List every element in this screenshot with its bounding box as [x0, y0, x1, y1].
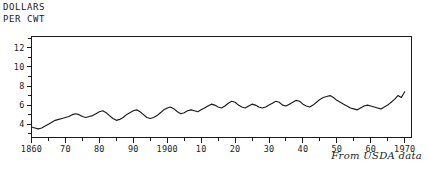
x-axis-tick-label: 20 — [230, 144, 241, 154]
y-axis-tick-label: 4 — [19, 119, 24, 129]
y-axis-tick-label: 6 — [19, 100, 24, 110]
x-axis-tick-label: 1860 — [21, 144, 42, 154]
x-axis-tick-label: 80 — [94, 144, 105, 154]
line-chart-plot: 4681012186070809019001020304050601970 — [0, 0, 429, 170]
plot-frame — [32, 37, 412, 138]
x-axis-tick-label: 10 — [196, 144, 207, 154]
x-axis-tick-label: 70 — [60, 144, 71, 154]
y-axis-tick-label: 12 — [14, 43, 25, 53]
y-axis-tick-label: 8 — [19, 81, 24, 91]
y-axis-title-line2: PER CWT — [3, 14, 45, 24]
y-axis-title: DOLLARS PER CWT — [3, 2, 45, 25]
x-axis-tick-label: 30 — [264, 144, 275, 154]
x-axis-tick-label: 40 — [298, 144, 309, 154]
chart-figure: DOLLARS PER CWT 468101218607080901900102… — [0, 0, 429, 170]
source-caption: From USDA data — [331, 150, 422, 161]
x-axis-tick-label: 90 — [128, 144, 139, 154]
y-axis-title-line1: DOLLARS — [3, 2, 45, 12]
x-axis-tick-label: 1900 — [157, 144, 178, 154]
y-axis-tick-label: 10 — [14, 62, 25, 72]
data-series-line — [32, 92, 405, 129]
